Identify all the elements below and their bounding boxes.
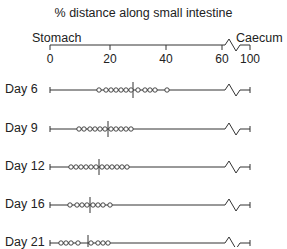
data-point-circle xyxy=(100,165,104,169)
data-point-circle xyxy=(136,88,140,92)
data-point-circle xyxy=(59,241,63,245)
data-point-circle xyxy=(79,165,83,169)
data-point-circle xyxy=(108,203,112,207)
data-point-circle xyxy=(88,127,92,131)
data-point-circle xyxy=(165,88,169,92)
data-point-circle xyxy=(89,165,93,169)
data-point-circle xyxy=(109,88,113,92)
data-point-circle xyxy=(82,127,86,131)
data-point-circle xyxy=(114,88,118,92)
data-point-circle xyxy=(148,88,152,92)
data-point-circle xyxy=(106,241,110,245)
data-point-circle xyxy=(101,241,105,245)
data-point-circle xyxy=(110,165,114,169)
data-point-circle xyxy=(69,241,73,245)
data-point-circle xyxy=(68,203,72,207)
data-point-circle xyxy=(96,241,100,245)
data-point-circle xyxy=(124,127,128,131)
data-point-circle xyxy=(103,127,107,131)
data-point-circle xyxy=(101,203,105,207)
data-point-circle xyxy=(125,165,129,169)
data-point-circle xyxy=(77,127,81,131)
data-point-circle xyxy=(124,88,128,92)
data-point-circle xyxy=(96,203,100,207)
data-point-circle xyxy=(75,203,79,207)
data-point-circle xyxy=(89,241,93,245)
data-point-circle xyxy=(84,165,88,169)
data-point-circle xyxy=(114,127,118,131)
data-point-circle xyxy=(153,88,157,92)
data-point-circle xyxy=(105,165,109,169)
data-point-circle xyxy=(80,203,84,207)
data-point-circle xyxy=(120,165,124,169)
data-point-circle xyxy=(129,127,133,131)
data-point-circle xyxy=(94,165,98,169)
data-point-circle xyxy=(91,203,95,207)
data-point-circle xyxy=(104,88,108,92)
data-point-circle xyxy=(97,88,101,92)
data-point-circle xyxy=(119,127,123,131)
data-point-circle xyxy=(85,203,89,207)
data-point-circle xyxy=(98,127,102,131)
axis-line xyxy=(50,39,250,51)
data-point-circle xyxy=(119,88,123,92)
data-point-circle xyxy=(64,241,68,245)
data-point-circle xyxy=(115,165,119,169)
data-point-circle xyxy=(74,165,78,169)
data-point-circle xyxy=(76,241,80,245)
data-point-circle xyxy=(69,165,73,169)
data-point-circle xyxy=(143,88,147,92)
data-point-circle xyxy=(93,127,97,131)
data-point-circle xyxy=(129,88,133,92)
data-point-circle xyxy=(109,127,113,131)
